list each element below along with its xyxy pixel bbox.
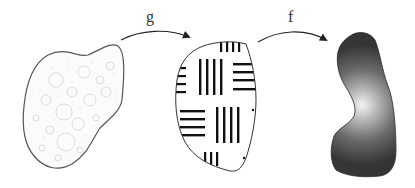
domain-outline	[23, 45, 123, 168]
arrow-g	[121, 31, 189, 40]
diagram-svg	[0, 0, 415, 188]
domain-region	[23, 45, 123, 168]
label-f: f	[288, 9, 293, 25]
bar-pattern	[170, 30, 270, 180]
arrow-f	[258, 32, 326, 42]
label-g: g	[146, 9, 154, 25]
target-shape	[331, 33, 396, 177]
diagram-canvas: g f	[0, 0, 415, 188]
intermediate-region	[170, 30, 270, 180]
target-region	[331, 33, 396, 177]
